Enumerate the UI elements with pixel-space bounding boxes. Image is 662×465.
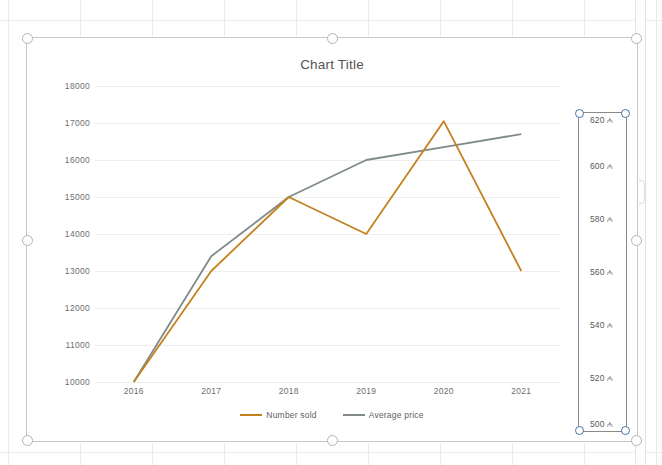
legend-color-swatch — [240, 414, 262, 416]
category-axis[interactable]: 201620172018201920202021 — [95, 386, 560, 404]
currency-symbol-icon: ₼ — [605, 375, 613, 382]
legend-color-swatch — [343, 414, 365, 416]
chart-resize-handle-bottom-left[interactable] — [22, 435, 33, 446]
secondary-axis-tick-value: 500 — [590, 419, 605, 429]
axis-handle-bottom-left[interactable] — [575, 426, 584, 435]
y-axis-tick-label: 10000 — [65, 377, 90, 387]
sheet-row-divider — [0, 452, 662, 453]
currency-symbol-icon: ₼ — [605, 322, 613, 329]
y-axis-tick-label: 14000 — [65, 229, 90, 239]
currency-symbol-icon: ₼ — [605, 216, 613, 223]
y-axis-tick-label: 15000 — [65, 192, 90, 202]
y-axis-tick-label: 16000 — [65, 155, 90, 165]
secondary-axis-tick-label: 500 ₼ — [579, 419, 624, 429]
chart-legend[interactable]: Number soldAverage price — [27, 410, 637, 420]
secondary-axis-tick-label: 620 ₼ — [579, 115, 624, 125]
secondary-axis-tick-value: 580 — [590, 214, 605, 224]
secondary-axis-tick-value: 560 — [590, 267, 605, 277]
x-axis-tick-label: 2020 — [434, 386, 454, 396]
secondary-axis-tick-value: 520 — [590, 373, 605, 383]
secondary-axis-tick-label: 580 ₼ — [579, 214, 624, 224]
legend-item[interactable]: Number sold — [240, 410, 316, 420]
legend-label: Average price — [369, 410, 424, 420]
y-axis-tick-label: 13000 — [65, 266, 90, 276]
secondary-axis-tick-label: 520 ₼ — [579, 373, 624, 383]
plot-area[interactable] — [95, 86, 560, 382]
y-axis-tick-label: 12000 — [65, 303, 90, 313]
y-axis-tick-label: 11000 — [65, 340, 90, 350]
secondary-axis-tick-label: 600 ₼ — [579, 161, 624, 171]
sheet-column-divider — [8, 0, 9, 465]
chart-object[interactable]: Chart Title 1000011000120001300014000150… — [26, 37, 638, 442]
axis-handle-bottom-right[interactable] — [621, 426, 630, 435]
secondary-axis-tick-value: 600 — [590, 161, 605, 171]
currency-symbol-icon: ₼ — [605, 163, 613, 170]
secondary-axis-tick-value: 540 — [590, 320, 605, 330]
chart-resize-handle-top-center[interactable] — [327, 33, 338, 44]
x-axis-tick-label: 2018 — [279, 386, 299, 396]
secondary-value-axis[interactable]: 620 ₼600 ₼580 ₼560 ₼540 ₼520 ₼500 ₼ — [578, 112, 627, 432]
sheet-column-divider — [656, 0, 657, 465]
secondary-axis-tick-label: 560 ₼ — [579, 267, 624, 277]
currency-symbol-icon: ₼ — [605, 421, 613, 428]
x-axis-tick-label: 2019 — [356, 386, 376, 396]
axis-handle-top-right[interactable] — [621, 109, 630, 118]
chart-resize-handle-bottom-center[interactable] — [327, 435, 338, 446]
secondary-axis-tick-label: 540 ₼ — [579, 320, 624, 330]
series-line-average-price[interactable] — [134, 134, 522, 382]
chart-resize-handle-bottom-right[interactable] — [631, 435, 642, 446]
y-axis-tick-label: 18000 — [65, 81, 90, 91]
chart-resize-handle-middle-right[interactable] — [631, 235, 642, 246]
x-axis-tick-label: 2016 — [124, 386, 144, 396]
sheet-row-divider — [0, 20, 662, 21]
gridline — [95, 382, 560, 383]
series-line-number-sold[interactable] — [134, 121, 522, 382]
x-axis-tick-label: 2021 — [511, 386, 531, 396]
chart-resize-handle-top-left[interactable] — [22, 33, 33, 44]
series-lines — [95, 86, 560, 382]
chart-resize-handle-top-right[interactable] — [631, 33, 642, 44]
primary-value-axis[interactable]: 1000011000120001300014000150001600017000… — [45, 86, 90, 382]
secondary-axis-tick-value: 620 — [590, 115, 605, 125]
y-axis-tick-label: 17000 — [65, 118, 90, 128]
legend-item[interactable]: Average price — [343, 410, 424, 420]
chart-title[interactable]: Chart Title — [27, 57, 637, 72]
currency-symbol-icon: ₼ — [605, 269, 613, 276]
chart-resize-handle-middle-left[interactable] — [22, 235, 33, 246]
legend-label: Number sold — [266, 410, 316, 420]
axis-handle-top-left[interactable] — [575, 109, 584, 118]
x-axis-tick-label: 2017 — [201, 386, 221, 396]
currency-symbol-icon: ₼ — [605, 117, 613, 124]
